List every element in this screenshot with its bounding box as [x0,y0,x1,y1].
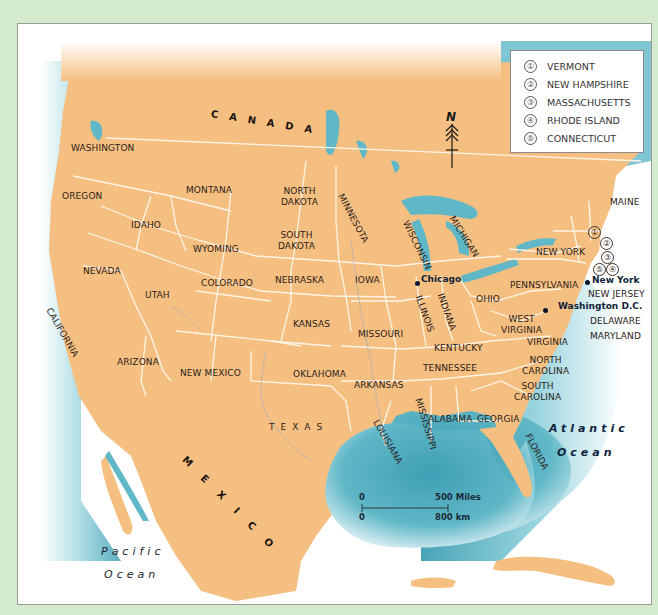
city-dot-chicago [415,281,420,286]
legend-number: ② [524,78,537,91]
state-label-kansas: KANSAS [293,319,330,330]
scale-bar: 0 500 Miles 0 800 km [338,492,488,532]
scale-top-zero: 0 [359,492,365,502]
state-label-nevada: NEVADA [83,266,121,277]
state-label-south-carolina: SOUTHCAROLINA [514,381,561,403]
state-label-delaware: DELAWARE [590,316,641,327]
legend-label: CONNECTICUT [547,133,616,144]
marker-vermont: ① [588,226,601,239]
state-label-oregon: OREGON [62,191,102,202]
legend-item-massachusetts: ③ MASSACHUSETTS [524,95,631,109]
state-label-washington: WASHINGTON [71,143,134,154]
ocean-label-pacific-1: Pacific [101,545,164,558]
legend-item-connecticut: ⑤ CONNECTICUT [524,131,616,145]
city-dot-new-york [585,280,590,285]
state-label-south-dakota: SOUTHDAKOTA [278,230,315,252]
ocean-label-pacific-2: Ocean [104,568,159,581]
legend-label: RHODE ISLAND [547,115,620,126]
state-label-iowa: IOWA [355,275,380,286]
state-label-nebraska: NEBRASKA [275,275,324,286]
city-dot-washington-dc [543,308,548,313]
state-label-arkansas: ARKANSAS [354,380,404,391]
state-label-utah: UTAH [145,290,170,301]
legend-number: ④ [524,114,537,127]
city-label-new-york: New York [592,275,639,285]
legend-item-rhode-island: ④ RHODE ISLAND [524,113,620,127]
legend-label: NEW HAMPSHIRE [547,79,629,90]
state-label-arizona: ARIZONA [117,357,159,368]
state-label-pennsylvania: PENNSYLVANIA [510,280,578,291]
legend-number: ⑤ [524,132,537,145]
legend-item-vermont: ① VERMONT [524,59,595,73]
scale-top-end: 500 Miles [435,492,481,502]
state-label-montana: MONTANA [186,185,232,196]
state-label-alabama: ALABAMA [428,414,473,425]
state-label-oklahoma: OKLAHOMA [293,369,346,380]
state-label-maine: MAINE [610,197,640,208]
state-label-georgia: GEORGIA [477,414,519,425]
state-label-ohio: OHIO [476,294,500,305]
legend-number: ① [524,60,537,73]
state-label-west-virginia: WESTVIRGINIA [501,314,542,336]
scale-bottom-zero: 0 [359,512,365,522]
north-arrow-icon [442,124,462,174]
legend-label: MASSACHUSETTS [547,97,631,108]
state-label-north-dakota: NORTHDAKOTA [281,186,318,208]
legend-label: VERMONT [547,61,595,72]
city-label-washington-dc: Washington D.C. [558,301,642,311]
state-label-new-mexico: NEW MEXICO [180,368,241,379]
marker-new-hampshire: ② [600,237,613,250]
state-label-colorado: COLORADO [201,278,253,289]
state-label-wyoming: WYOMING [193,244,239,255]
legend-item-new-hampshire: ② NEW HAMPSHIRE [524,77,629,91]
state-label-tennessee: TENNESSEE [423,363,477,374]
north-arrow: N [442,110,462,170]
state-label-maryland: MARYLAND [590,331,641,342]
state-label-new-jersey: NEW JERSEY [588,289,645,300]
state-label-texas: TEXAS [269,422,328,433]
state-label-new-york: NEW YORK [536,247,585,258]
city-label-chicago: Chicago [421,274,461,284]
legend-number: ③ [524,96,537,109]
ocean-label-atlantic-2: Ocean [557,446,616,459]
north-label: N [446,110,456,124]
state-label-north-carolina: NORTHCAROLINA [522,355,569,377]
legend-box: ① VERMONT ② NEW HAMPSHIRE ③ MASSACHUSETT… [510,50,644,153]
state-label-idaho: IDAHO [131,220,161,231]
state-label-kentucky: KENTUCKY [434,343,483,354]
state-label-virginia: VIRGINIA [527,337,568,348]
scale-bottom-end: 800 km [435,512,470,522]
state-label-missouri: MISSOURI [358,329,403,340]
map-frame: CANADA MEXICO Pacific Ocean Atlantic Oce… [17,23,652,605]
ocean-label-atlantic-1: Atlantic [549,422,629,435]
